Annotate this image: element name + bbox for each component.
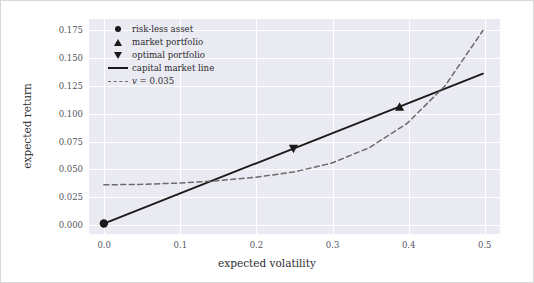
x-axis-tick-label: 0.5 [478,240,492,250]
legend-item-label: capital market line [129,63,214,73]
data-point-market-portfolio [395,102,404,110]
x-axis-label: expected volatility [1,257,533,269]
x-axis-tick-label: 0.4 [402,240,416,250]
circle-marker-icon [107,23,129,35]
data-point-risk-less-asset [100,219,108,227]
y-axis-tick-label: 0.100 [43,109,83,119]
circle-marker-icon-glyph [115,26,121,32]
y-axis-tick-label: 0.025 [43,192,83,202]
chart-legend: risk-less assetmarket portfoliooptimal p… [107,23,214,87]
x-axis-tick-label: 0.0 [97,240,111,250]
triangle-up-marker-icon [107,36,129,48]
legend-item: v = 0.035 [107,75,214,87]
dashed-line-icon [107,75,129,87]
x-axis-tick-label: 0.2 [250,240,264,250]
y-axis-tick-label: 0.050 [43,164,83,174]
legend-item: capital market line [107,62,214,74]
legend-item-label: risk-less asset [129,24,193,34]
chart-figure: expected return expected volatility risk… [0,0,534,283]
y-axis-tick-label: 0.175 [43,25,83,35]
triangle-down-marker-icon [107,49,129,61]
x-axis-tick-label: 0.1 [174,240,188,250]
legend-item-label: v = 0.035 [129,76,174,86]
legend-item: risk-less asset [107,23,214,35]
y-axis-tick-label: 0.125 [43,81,83,91]
solid-line-icon [107,62,129,74]
legend-item-label: market portfolio [129,37,203,47]
y-axis-tick-label: 0.000 [43,220,83,230]
x-axis-tick-label: 0.3 [326,240,340,250]
solid-line-icon-glyph [108,67,128,69]
dashed-line-icon-glyph [108,81,128,82]
y-axis-label: expected return [21,83,33,168]
triangle-down-marker-icon-glyph [114,52,122,59]
legend-item: market portfolio [107,36,214,48]
legend-item: optimal portfolio [107,49,214,61]
triangle-up-marker-icon-glyph [114,39,122,46]
y-axis-tick-label: 0.075 [43,137,83,147]
y-axis-tick-label: 0.150 [43,53,83,63]
legend-item-label: optimal portfolio [129,50,205,60]
